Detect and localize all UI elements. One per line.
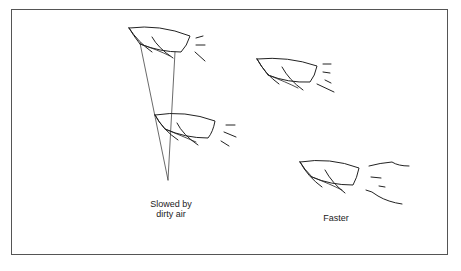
wind-lines (366, 162, 409, 204)
boat-top-right (257, 58, 334, 92)
wind-shadow-cone (140, 43, 175, 180)
wind-lines (221, 125, 236, 146)
boat-mid-left (155, 113, 236, 146)
sailing-diagram (0, 0, 461, 271)
label-slowed-by-dirty-air: Slowed by dirty air (136, 199, 206, 219)
boat-bottom-right (300, 160, 409, 204)
wind-lines (195, 36, 205, 61)
label-faster: Faster (316, 213, 356, 223)
boat-top-left (129, 27, 205, 61)
wind-lines (317, 64, 334, 92)
